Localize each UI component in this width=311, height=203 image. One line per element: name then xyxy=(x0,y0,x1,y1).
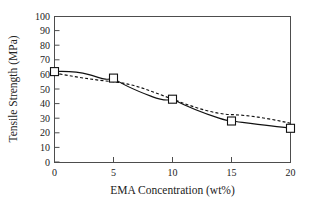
y-tick-labels: 0 10 20 30 40 50 60 70 80 90 100 xyxy=(35,11,50,168)
y-tick-label: 30 xyxy=(40,113,50,124)
chart-figure: 0 10 20 30 40 50 60 70 80 90 100 0 5 10 … xyxy=(0,0,311,203)
y-tick-label: 60 xyxy=(40,69,50,80)
plot-frame xyxy=(55,17,291,163)
data-point-markers xyxy=(51,68,295,133)
tensile-strength-line-chart: 0 10 20 30 40 50 60 70 80 90 100 0 5 10 … xyxy=(0,0,311,203)
x-tick-label: 20 xyxy=(286,167,296,178)
data-point-marker xyxy=(110,74,118,82)
x-axis-title: EMA Concentration (wt%) xyxy=(110,184,235,197)
data-point-marker xyxy=(51,68,59,76)
data-point-marker xyxy=(287,124,295,132)
data-point-marker xyxy=(169,95,177,103)
y-tick-label: 0 xyxy=(45,157,50,168)
y-tick-label: 50 xyxy=(40,84,50,95)
x-tick-label: 0 xyxy=(52,167,57,178)
x-axis-ticks xyxy=(55,157,291,162)
x-tick-label: 10 xyxy=(168,167,178,178)
data-point-marker xyxy=(228,117,236,125)
y-tick-label: 20 xyxy=(40,127,50,138)
x-tick-label: 15 xyxy=(227,167,237,178)
y-tick-label: 100 xyxy=(35,11,50,22)
y-tick-label: 90 xyxy=(40,25,50,36)
y-tick-label: 40 xyxy=(40,98,50,109)
y-tick-label: 80 xyxy=(40,40,50,51)
y-tick-label: 10 xyxy=(40,142,50,153)
x-tick-labels: 0 5 10 15 20 xyxy=(52,167,296,178)
x-tick-label: 5 xyxy=(111,167,116,178)
y-axis-ticks xyxy=(55,17,60,163)
y-tick-label: 70 xyxy=(40,54,50,65)
y-axis-title: Tensile Strength (MPa) xyxy=(7,35,20,142)
